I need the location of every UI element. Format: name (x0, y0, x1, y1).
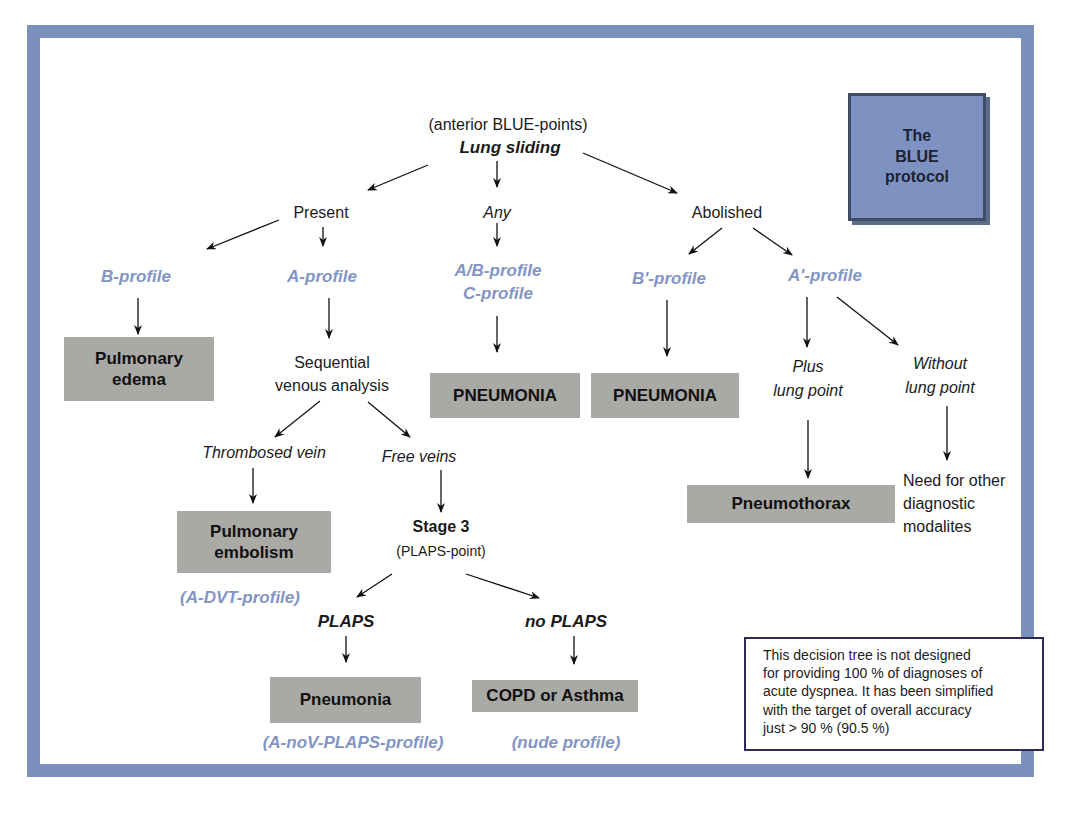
plus-line1: Plus (792, 357, 823, 376)
note-line5: just > 90 % (90.5 %) (763, 719, 1034, 737)
profile-b-prime: B'-profile (632, 269, 706, 289)
need-line3: modalites (903, 515, 1005, 538)
diagnosis-pneumonia-plaps: Pneumonia (270, 677, 421, 723)
profile-ab: A/B-profile (455, 261, 542, 281)
profile-a: A-profile (287, 267, 357, 287)
sequential-line2: venous analysis (275, 376, 389, 395)
profile-nude: (nude profile) (512, 733, 621, 753)
title-line-3: protocol (885, 167, 949, 188)
profile-b: B-profile (101, 267, 171, 287)
need-other-modalities: Need for other diagnostic modalites (903, 469, 1005, 539)
note-line3: acute dyspnea. It has been simplified (763, 682, 1034, 700)
sequential-line1: Sequential (294, 353, 370, 372)
pulmonary-edema-line1: Pulmonary (95, 348, 183, 369)
diagnosis-pneumonia-c-profile: PNEUMONIA (430, 373, 580, 418)
root-label: Lung sliding (459, 138, 560, 158)
pulmonary-edema-line2: edema (95, 369, 183, 390)
diagnosis-pulmonary-embolism: Pulmonary embolism (177, 511, 331, 573)
thrombosed-vein: Thrombosed vein (202, 443, 326, 462)
stage-3: Stage 3 (413, 517, 470, 536)
without-line2: lung point (905, 378, 974, 397)
disclaimer-note: This decision tree is not designed for p… (744, 637, 1044, 751)
title-line-2: BLUE (885, 147, 949, 168)
blue-protocol-title-box: The BLUE protocol (848, 93, 986, 221)
need-line1: Need for other (903, 469, 1005, 492)
pulmonary-embolism-line1: Pulmonary (210, 521, 298, 542)
root-subtitle: (anterior BLUE-points) (428, 115, 587, 134)
branch-any: Any (483, 203, 511, 222)
diagnosis-pulmonary-edema: Pulmonary edema (64, 337, 214, 401)
note-line4: with the target of overall accuracy (763, 701, 1034, 719)
note-line2: for providing 100 % of diagnoses of (763, 664, 1034, 682)
branch-abolished: Abolished (692, 203, 762, 222)
plus-line2: lung point (773, 381, 842, 400)
diagnosis-pneumothorax: Pneumothorax (687, 485, 895, 523)
note-line1: This decision tree is not designed (763, 646, 1034, 664)
without-line1: Without (913, 354, 967, 373)
diagnosis-pneumonia-b-prime: PNEUMONIA (591, 373, 739, 418)
profile-a-prime: A'-profile (788, 266, 862, 286)
profile-a-nov-plaps: (A-noV-PLAPS-profile) (263, 733, 444, 753)
profile-c: C-profile (463, 284, 533, 304)
plaps: PLAPS (318, 612, 375, 632)
pulmonary-embolism-line2: embolism (210, 542, 298, 563)
diagnosis-copd-asthma: COPD or Asthma (472, 680, 638, 712)
free-veins: Free veins (382, 447, 457, 466)
title-line-1: The (885, 126, 949, 147)
no-plaps: no PLAPS (525, 612, 607, 632)
profile-a-dvt: (A-DVT-profile) (180, 588, 300, 608)
branch-present: Present (293, 203, 348, 222)
plaps-point: (PLAPS-point) (396, 543, 485, 560)
need-line2: diagnostic (903, 492, 1005, 515)
